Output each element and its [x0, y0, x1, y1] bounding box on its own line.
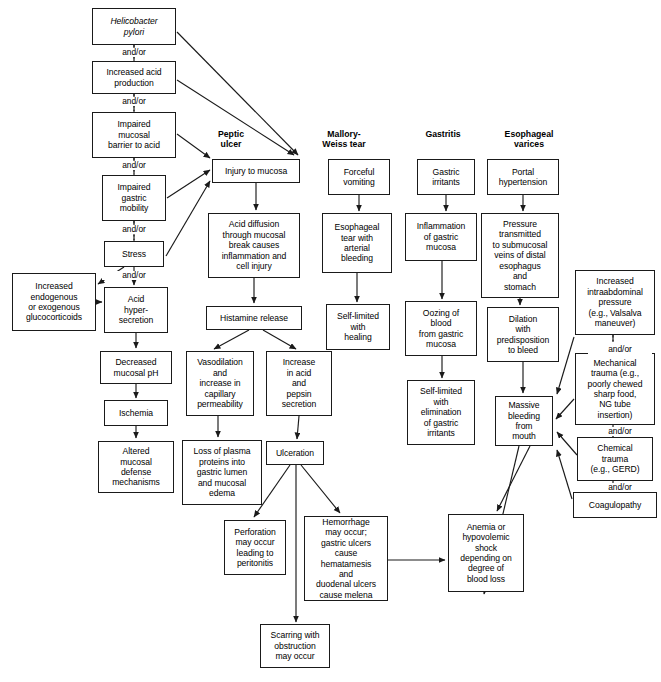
- edge-arrow: [557, 450, 572, 499]
- node-self-limited-elimination[interactable]: Self-limitedwitheliminationof gastricirr…: [407, 380, 475, 445]
- node-decreased-mucosal-ph[interactable]: Decreasedmucosal pH: [100, 351, 172, 384]
- edge-arrow: [214, 330, 249, 349]
- node-label: Portalhypertension: [499, 167, 548, 188]
- node-acid-diffusion[interactable]: Acid diffusionthrough mucosalbreak cause…: [208, 213, 300, 278]
- column-header-label: Pepticulcer: [218, 129, 244, 149]
- node-ulceration[interactable]: Ulceration: [266, 441, 324, 465]
- node-label: Helicobacterpylori: [110, 16, 157, 37]
- node-mechanical-trauma[interactable]: Mechanicaltrauma (e.g.,poorly chewedshar…: [575, 353, 655, 425]
- node-altered-mucosal-defense[interactable]: Alteredmucosaldefensemechanisms: [98, 441, 174, 493]
- edge-arrow: [263, 330, 296, 349]
- node-label: Vasodilationandincrease incapillaryperme…: [197, 357, 243, 409]
- node-oozing-of-blood[interactable]: Oozing ofbloodfrom gastricmucosa: [405, 301, 477, 356]
- node-label: Gastricirritants: [432, 167, 460, 188]
- node-label: Hemorrhagemay occur;gastric ulcerscauseh…: [316, 517, 376, 600]
- node-coagulopathy[interactable]: Coagulopathy: [573, 492, 657, 518]
- node-increased-acid-production[interactable]: Increased acidproduction: [92, 61, 176, 94]
- connector-label-and-or: and/or: [102, 161, 166, 170]
- edge-arrow: [497, 446, 530, 511]
- column-header-label: Esophagealvarices: [505, 129, 554, 149]
- node-label: Forcefulvomiting: [343, 167, 375, 188]
- node-label: Increased acidproduction: [106, 67, 161, 88]
- node-histamine-release[interactable]: Histamine release: [206, 306, 302, 330]
- node-label: Impairedmucosalbarrier to acid: [108, 119, 160, 150]
- node-helicobacter-pylori[interactable]: Helicobacterpylori: [92, 8, 176, 45]
- node-label: Ischemia: [119, 408, 153, 418]
- node-label: Increasein acidandpepsinsecretion: [282, 357, 316, 409]
- hdr-esophageal-varices: Esophagealvarices: [480, 129, 578, 149]
- node-loss-of-plasma-proteins[interactable]: Loss of plasmaproteins intogastric lumen…: [182, 440, 262, 505]
- connector-label-and-or: and/or: [102, 225, 166, 234]
- node-label: Anemia orhypovolemicshockdepending ondeg…: [460, 522, 512, 584]
- node-label: Esophagealtear witharterialbleeding: [335, 222, 380, 264]
- node-label: Chemicaltrauma(e.g., GERD): [590, 443, 639, 474]
- connector-label-and-or: and/or: [588, 427, 652, 436]
- column-header-label: Gastritis: [425, 129, 460, 139]
- node-scarring-obstruction[interactable]: Scarring withobstructionmay occur: [260, 624, 330, 668]
- node-label: Acid diffusionthrough mucosalbreak cause…: [222, 219, 287, 271]
- node-increase-acid-pepsin[interactable]: Increasein acidandpepsinsecretion: [266, 351, 332, 416]
- node-label: Acidhyper-secretion: [119, 294, 153, 325]
- node-forceful-vomiting[interactable]: Forcefulvomiting: [328, 159, 390, 195]
- edge-arrow: [297, 416, 299, 439]
- node-dilation-predisposition[interactable]: Dilationwithpredispositionto bleed: [487, 307, 559, 362]
- node-label: Dilationwithpredispositionto bleed: [497, 314, 549, 356]
- node-label: Self-limitedwithhealing: [337, 311, 379, 342]
- node-gastric-irritants[interactable]: Gastricirritants: [417, 159, 475, 195]
- node-anemia-hypovolemic-shock[interactable]: Anemia orhypovolemicshockdepending ondeg…: [448, 514, 524, 592]
- node-esophageal-tear[interactable]: Esophagealtear witharterialbleeding: [322, 213, 392, 273]
- flowchart-canvas: HelicobacterpyloriIncreased acidproducti…: [0, 0, 661, 682]
- node-vasodilation[interactable]: Vasodilationandincrease incapillaryperme…: [186, 351, 254, 416]
- node-hemorrhage[interactable]: Hemorrhagemay occur;gastric ulcerscauseh…: [304, 516, 388, 601]
- connector-label-and-or: and/or: [588, 483, 652, 492]
- hdr-gastritis: Gastritis: [404, 129, 482, 139]
- node-acid-hypersecretion[interactable]: Acidhyper-secretion: [104, 287, 168, 333]
- hdr-mallory-weiss: Mallory-Weiss tear: [303, 129, 385, 149]
- edge-arrow: [557, 337, 574, 394]
- node-label: Loss of plasmaproteins intogastric lumen…: [193, 446, 250, 498]
- node-label: Scarring withobstructionmay occur: [270, 630, 319, 661]
- node-label: Increasedendogenousor exogenousglucocort…: [26, 281, 82, 323]
- node-label: Coagulopathy: [589, 500, 641, 510]
- node-ischemia[interactable]: Ischemia: [104, 400, 168, 426]
- node-pressure-transmitted[interactable]: Pressuretransmittedto submucosalveins of…: [481, 213, 559, 298]
- node-inflammation-gastric-mucosa[interactable]: Inflammationof gastricmucosa: [405, 213, 477, 261]
- node-stress[interactable]: Stress: [104, 241, 164, 267]
- connector-label-and-or: and/or: [102, 271, 166, 280]
- edge-arrow: [167, 170, 210, 198]
- node-increased-glucocorticoids[interactable]: Increasedendogenousor exogenousglucocort…: [12, 273, 96, 331]
- connector-label-and-or: and/or: [102, 97, 166, 106]
- node-label: Self-limitedwitheliminationof gastricirr…: [420, 386, 462, 438]
- node-impaired-gastric-mobility[interactable]: Impairedgastricmobility: [102, 175, 166, 221]
- node-massive-bleeding[interactable]: Massivebleedingfrommouth: [495, 396, 553, 446]
- node-self-limited-healing[interactable]: Self-limitedwithhealing: [326, 304, 390, 350]
- node-impaired-mucosal-barrier[interactable]: Impairedmucosalbarrier to acid: [92, 112, 176, 158]
- node-label: Injury to mucosa: [225, 166, 287, 176]
- node-label: Ulceration: [276, 448, 314, 458]
- node-label: Mechanicaltrauma (e.g.,poorly chewedshar…: [588, 358, 643, 420]
- node-label: Perforationmay occurleading toperitoniti…: [234, 527, 276, 569]
- node-injury-to-mucosa[interactable]: Injury to mucosa: [212, 159, 300, 183]
- edge-arrow: [301, 465, 340, 513]
- node-label: Oozing ofbloodfrom gastricmucosa: [419, 308, 463, 350]
- connector-label-and-or: and/or: [102, 48, 166, 57]
- edge-arrow: [557, 432, 577, 455]
- node-label: Decreasedmucosal pH: [114, 357, 159, 378]
- column-header-label: Mallory-Weiss tear: [322, 129, 365, 149]
- node-label: Stress: [122, 249, 146, 259]
- connector-label-and-or: and/or: [588, 345, 652, 354]
- edge-arrow: [556, 399, 574, 419]
- node-portal-hypertension[interactable]: Portalhypertension: [487, 159, 559, 195]
- node-label: Pressuretransmittedto submucosalveins of…: [493, 219, 548, 292]
- node-label: Histamine release: [220, 313, 288, 323]
- node-label: Impairedgastricmobility: [117, 182, 150, 213]
- node-label: Massivebleedingfrommouth: [508, 400, 540, 442]
- node-label: Increasedintraabdominalpressure(e.g., Va…: [587, 276, 643, 328]
- node-label: Inflammationof gastricmucosa: [417, 221, 466, 252]
- node-chemical-trauma[interactable]: Chemicaltrauma(e.g., GERD): [577, 437, 653, 481]
- node-increased-intraabdominal-pressure[interactable]: Increasedintraabdominalpressure(e.g., Va…: [575, 270, 655, 335]
- node-perforation[interactable]: Perforationmay occurleading toperitoniti…: [224, 520, 286, 575]
- edge-arrow: [166, 181, 210, 256]
- node-label: Alteredmucosaldefensemechanisms: [112, 446, 160, 488]
- hdr-peptic-ulcer: Pepticulcer: [196, 129, 266, 149]
